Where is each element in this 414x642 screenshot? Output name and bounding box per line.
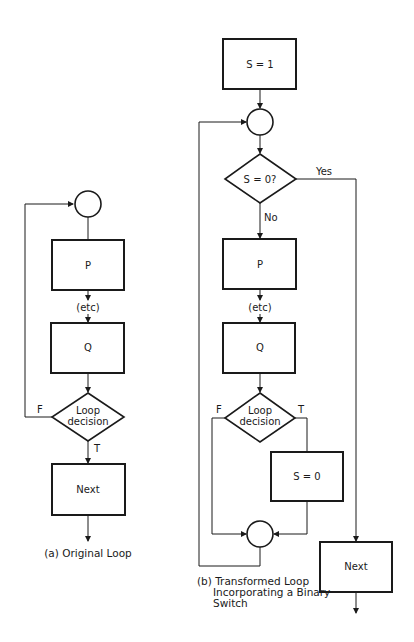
process-box-q-label: Q <box>84 342 92 353</box>
loop-decision-label-line1: Loop <box>248 405 272 416</box>
yes-branch-label: Yes <box>315 166 332 177</box>
no-branch-label: No <box>264 212 278 223</box>
switch-test-label: S = 0? <box>244 174 277 185</box>
etc-label: (etc) <box>76 302 99 313</box>
process-box-p-label: P <box>85 260 91 271</box>
next-box-label: Next <box>76 484 99 495</box>
connector-reset-to-junction <box>274 501 307 534</box>
false-branch-connector <box>212 418 246 534</box>
loop-entry-junction <box>75 191 101 217</box>
flowchart-canvas: P (etc) Q Loop decision F T Next (a) Ori… <box>0 0 414 642</box>
etc-label: (etc) <box>248 302 271 313</box>
loop-entry-junction <box>247 109 273 135</box>
false-branch-label: F <box>216 404 222 415</box>
loop-merge-junction <box>247 521 273 547</box>
diagram-original-loop: P (etc) Q Loop decision F T Next (a) Ori… <box>25 191 132 559</box>
true-branch-label: T <box>93 443 101 454</box>
loop-decision-label-line2: decision <box>67 416 108 427</box>
next-box-label: Next <box>344 561 367 572</box>
loop-decision-label-line2: decision <box>239 416 280 427</box>
loop-back-connector <box>25 204 73 417</box>
caption-original-loop: (a) Original Loop <box>44 547 132 559</box>
process-box-q-label: Q <box>256 342 264 353</box>
loop-decision-label-line1: Loop <box>76 405 100 416</box>
true-branch-connector <box>295 418 307 452</box>
false-branch-label: F <box>37 404 43 415</box>
reset-switch-label: S = 0 <box>293 471 320 482</box>
diagram-transformed-loop: S = 1 S = 0? Yes No P (etc) Q Loop decis… <box>197 39 392 613</box>
process-box-p-label: P <box>257 259 263 270</box>
init-switch-label: S = 1 <box>246 59 273 70</box>
caption-transformed-loop-line3: Switch <box>213 597 248 609</box>
true-branch-label: T <box>297 404 305 415</box>
